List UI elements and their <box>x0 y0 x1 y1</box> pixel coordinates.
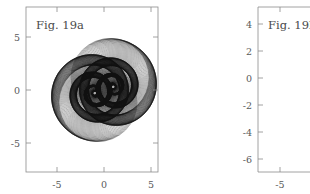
x-tick-label-fig-19a-2: 5 <box>148 179 154 190</box>
y-tick-label-fig-19b-3: -2 <box>243 100 252 111</box>
plot-panel-fig-19a: 5 0 -5 -5 0 5 Fig. 19a <box>0 0 170 194</box>
y-tick-label-fig-19b-0: 4 <box>246 19 252 30</box>
plot-panel-fig-19b: 4 2 0 -2 -4 -6 -5 Fig. 19b <box>232 0 310 194</box>
y-tick-label-fig-19a-0: 5 <box>14 32 20 43</box>
y-tick-label-fig-19a-2: -5 <box>11 138 20 149</box>
y-tick-label-fig-19b-1: 2 <box>246 46 252 57</box>
figure-root: 5 0 -5 -5 0 5 Fig. 19a <box>0 0 310 194</box>
x-tick-label-fig-19b-0: -5 <box>275 179 284 190</box>
x-tick-label-fig-19a-0: -5 <box>52 179 61 190</box>
y-tick-label-fig-19b-5: -6 <box>243 154 252 165</box>
curve-group-fig-19a <box>51 38 156 141</box>
x-tick-label-fig-19a-1: 0 <box>101 179 107 190</box>
y-tick-label-fig-19a-1: 0 <box>14 85 20 96</box>
plot-svg-fig-19b: 4 2 0 -2 -4 -6 -5 Fig. 19b <box>232 0 310 194</box>
plot-svg-fig-19a: 5 0 -5 -5 0 5 Fig. 19a <box>0 0 170 194</box>
y-tick-label-fig-19b-2: 0 <box>246 73 252 84</box>
panel-title-fig-19b: Fig. 19b <box>268 18 310 32</box>
panel-title-fig-19a: Fig. 19a <box>36 18 84 32</box>
y-tick-label-fig-19b-4: -4 <box>243 127 252 138</box>
